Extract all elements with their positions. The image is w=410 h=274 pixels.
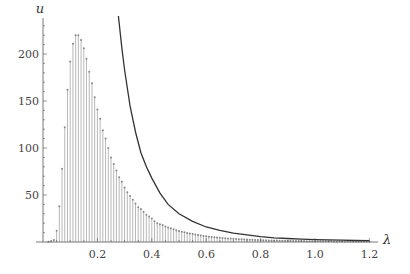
stem-marker [200, 235, 202, 237]
stem-marker [80, 39, 82, 41]
stem-marker [238, 238, 240, 240]
stem-marker [219, 237, 221, 239]
y-tick-label: 150 [18, 95, 39, 108]
stem-marker [197, 234, 199, 236]
stem-marker [66, 89, 68, 91]
stem-marker [86, 58, 88, 60]
stem-marker [99, 118, 101, 120]
stem-marker [102, 129, 104, 131]
stem-marker [254, 239, 256, 241]
stem-marker [227, 237, 229, 239]
stem-marker [124, 186, 126, 188]
stem-marker [126, 191, 128, 193]
stem-marker [257, 239, 259, 241]
stem-marker [181, 231, 183, 233]
stem-marker [107, 147, 109, 149]
stem-marker [58, 205, 60, 207]
stem-marker [162, 224, 164, 226]
y-axis-label: u [36, 1, 44, 16]
stem-marker [251, 239, 253, 241]
x-tick-label: 0.2 [89, 248, 107, 261]
stem-marker [75, 34, 77, 36]
axes [36, 18, 378, 242]
x-tick-label: 0.6 [197, 248, 215, 261]
stem-marker [178, 230, 180, 232]
stem-marker [113, 163, 115, 165]
stem-marker [216, 236, 218, 238]
stem-marker [211, 236, 213, 238]
stem-marker [96, 108, 98, 110]
stem-marker [241, 238, 243, 240]
stem-marker [194, 234, 196, 236]
stem-marker [148, 216, 150, 218]
stem-marker [268, 239, 270, 241]
stem-marker [91, 82, 93, 84]
stem-marker [243, 238, 245, 240]
stem-marker [69, 61, 71, 63]
stem-marker [213, 236, 215, 238]
x-tick-label: 1.0 [306, 248, 324, 261]
stem-marker [129, 195, 131, 197]
stem-marker [94, 96, 96, 98]
stem-marker [53, 239, 55, 241]
stem-marker [159, 223, 161, 225]
stem-marker [118, 176, 120, 178]
stem-marker [189, 233, 191, 235]
stem-marker [72, 43, 74, 45]
x-axis-label: λ [382, 232, 391, 247]
stem-marker [137, 206, 139, 208]
stem-series [47, 34, 370, 243]
x-tick-label: 0.8 [252, 248, 270, 261]
stem-marker [143, 211, 145, 213]
stem-marker [235, 238, 237, 240]
stem-marker [183, 231, 185, 233]
stem-marker [192, 233, 194, 235]
stem-chart: 50100150200 0.20.40.60.81.01.2 u λ [0, 0, 410, 274]
stem-marker [175, 229, 177, 231]
stem-marker [284, 240, 286, 242]
stem-marker [281, 240, 283, 242]
stem-marker [145, 214, 147, 216]
stem-marker [110, 156, 112, 158]
stem-marker [88, 71, 90, 73]
stem-marker [232, 238, 234, 240]
stem-marker [208, 236, 210, 238]
stem-marker [290, 240, 292, 242]
stem-marker [64, 126, 66, 128]
stem-marker [276, 240, 278, 242]
y-tick-label: 200 [18, 48, 39, 61]
stem-marker [77, 34, 79, 36]
stem-marker [115, 170, 117, 172]
stem-marker [56, 230, 58, 232]
y-tick-label: 50 [25, 189, 39, 202]
stem-marker [170, 227, 172, 229]
stem-marker [265, 239, 267, 241]
stem-marker [270, 239, 272, 241]
stem-marker [249, 239, 251, 241]
stem-marker [132, 199, 134, 201]
stem-marker [121, 181, 123, 183]
x-tick-label: 0.4 [143, 248, 161, 261]
decay-curve [118, 16, 369, 241]
stem-marker [151, 218, 153, 220]
stem-marker [224, 237, 226, 239]
stem-marker [105, 138, 107, 140]
stem-marker [140, 208, 142, 210]
stem-marker [205, 235, 207, 237]
stem-marker [167, 226, 169, 228]
stem-marker [279, 240, 281, 242]
stem-marker [154, 220, 156, 222]
stem-marker [61, 168, 63, 170]
stem-marker [134, 202, 136, 204]
x-tick-label: 1.2 [361, 248, 379, 261]
y-tick-label: 100 [18, 142, 39, 155]
stem-marker [222, 237, 224, 239]
stem-marker [186, 232, 188, 234]
stem-marker [164, 225, 166, 227]
stem-marker [262, 239, 264, 241]
stem-marker [156, 222, 158, 224]
stem-marker [230, 238, 232, 240]
stem-marker [202, 235, 204, 237]
stem-marker [173, 228, 175, 230]
stem-marker [83, 47, 85, 49]
